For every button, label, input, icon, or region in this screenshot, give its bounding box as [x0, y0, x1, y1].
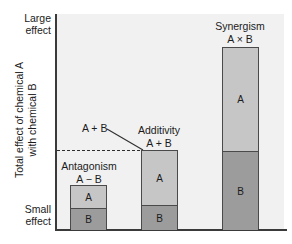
- bar-additivity-segment-a: A: [142, 151, 177, 205]
- y-axis-bottom-label-line2: effect: [26, 215, 52, 227]
- y-axis-top-label: Large effect: [0, 13, 51, 36]
- bar-antagonism: A B: [70, 185, 107, 229]
- bar-caption-antagonism-line2: A − B: [53, 173, 125, 186]
- bar-antagonism-segment-b-label: B: [85, 214, 92, 225]
- bar-synergism-segment-b-label: B: [237, 186, 244, 197]
- bar-additivity: A B: [141, 150, 178, 229]
- bar-caption-synergism-line1: Synergism: [203, 20, 277, 33]
- bar-caption-additivity-line2: A + B: [124, 137, 194, 150]
- bar-caption-synergism-line2: A × B: [203, 33, 277, 46]
- bar-synergism-segment-a: A: [223, 48, 258, 151]
- bar-synergism: A B: [222, 47, 259, 229]
- bar-synergism-segment-a-label: A: [237, 94, 244, 105]
- bar-additivity-segment-a-label: A: [156, 173, 163, 184]
- bar-caption-additivity-line1: Additivity: [124, 124, 194, 137]
- bar-antagonism-segment-a: A: [71, 186, 106, 208]
- bar-antagonism-segment-a-label: A: [85, 192, 92, 203]
- bar-caption-antagonism: Antagonism A − B: [53, 160, 125, 185]
- y-axis-line: [55, 14, 57, 230]
- bar-antagonism-segment-b: B: [71, 208, 106, 230]
- bar-additivity-segment-b: B: [142, 205, 177, 230]
- bar-caption-additivity: Additivity A + B: [124, 124, 194, 149]
- chart-figure: Total effect of chemical A with chemical…: [0, 0, 292, 244]
- bar-synergism-segment-b: B: [223, 151, 258, 230]
- y-axis-bottom-label-line1: Small: [25, 203, 51, 215]
- y-axis-title-line1: Total effect of chemical A: [13, 30, 26, 210]
- y-axis-bottom-label: Small effect: [0, 204, 51, 227]
- bar-caption-synergism: Synergism A × B: [203, 20, 277, 45]
- reference-line-callout-label: A + B: [82, 122, 107, 134]
- y-axis-top-label-line1: Large: [24, 12, 51, 24]
- y-axis-title: Total effect of chemical A with chemical…: [13, 30, 39, 210]
- bar-additivity-segment-b-label: B: [156, 213, 163, 224]
- bar-caption-antagonism-line1: Antagonism: [53, 160, 125, 173]
- y-axis-title-line2: with chemical B: [26, 30, 39, 210]
- y-axis-top-label-line2: effect: [26, 24, 52, 36]
